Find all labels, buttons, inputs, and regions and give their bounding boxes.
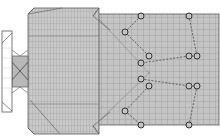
node-circle-icon (146, 83, 152, 89)
node-circle-icon (186, 13, 192, 19)
node-circle-icon (186, 122, 192, 128)
main-block (28, 8, 110, 134)
extension-grid (97, 14, 219, 125)
node-circle-icon (122, 29, 128, 35)
node-circle-icon (138, 13, 144, 19)
node-circle-icon (194, 83, 200, 89)
node-circle-icon (138, 60, 144, 66)
node-circle-icon (122, 108, 128, 114)
node-circle-icon (186, 83, 192, 89)
node-circle-icon (138, 122, 144, 128)
structural-plan-diagram (0, 0, 220, 138)
node-circle-icon (138, 76, 144, 82)
node-circle-icon (146, 53, 152, 59)
node-circle-icon (186, 53, 192, 59)
connector (12, 50, 28, 93)
node-circle-icon (194, 53, 200, 59)
annex-strip (2, 31, 12, 112)
